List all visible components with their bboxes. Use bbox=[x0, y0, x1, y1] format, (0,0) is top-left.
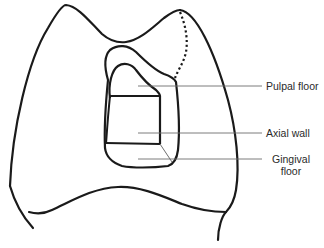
gingival-floor-edge bbox=[106, 143, 160, 144]
label-pulpal-floor: Pulpal floor bbox=[266, 80, 319, 92]
tooth-outline-left-root bbox=[10, 186, 33, 228]
cavity-outer-outline bbox=[105, 46, 179, 167]
tooth-diagram bbox=[0, 0, 324, 248]
label-gingival-floor-line1: Gingival bbox=[266, 153, 316, 165]
dotted-proximal-outline bbox=[175, 12, 187, 78]
cervical-line bbox=[29, 187, 226, 213]
cavity-inner-outline bbox=[109, 64, 160, 144]
label-gingival-floor: Gingival floor bbox=[266, 153, 316, 177]
label-axial-wall: Axial wall bbox=[266, 127, 310, 139]
label-gingival-floor-line2: floor bbox=[266, 165, 316, 177]
